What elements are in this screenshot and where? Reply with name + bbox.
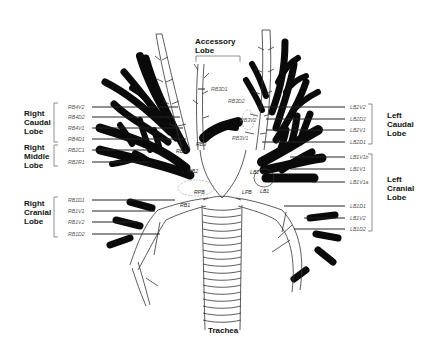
segment-label: RB2R1 <box>68 159 85 165</box>
trachea-ring <box>203 229 241 231</box>
trachea-ring <box>203 299 241 301</box>
label-lb2: LB2 <box>250 169 259 175</box>
lobe-title-line: Accessory <box>195 37 236 46</box>
segment-label: RB1D1 <box>68 197 85 203</box>
trachea-ring <box>203 215 241 217</box>
lobe-title-line: Lobe <box>387 129 407 138</box>
lobe-title-left-caudal: Left Caudal Lobe <box>387 111 414 138</box>
segment-label: LB2D2 <box>350 116 366 122</box>
segment-label: RB4V2 <box>68 104 85 110</box>
segment-label: RB3V2 <box>240 117 257 123</box>
label-lpb: LPB <box>242 189 252 195</box>
segment-label: LB2V2 <box>350 104 366 110</box>
segment-label: LB1V1a <box>350 179 369 185</box>
trachea-ring <box>203 243 241 245</box>
trachea-ring <box>203 320 241 322</box>
lobe-title-line: Cranial <box>24 208 51 217</box>
segment-label: RB1D2 <box>68 231 85 237</box>
lobe-title-right-middle: Right Middle Lobe <box>24 143 50 170</box>
label-rb1: RB1 <box>180 202 190 208</box>
lobe-title-line: Lobe <box>24 217 44 226</box>
lobe-title-accessory: Accessory Lobe <box>195 37 236 55</box>
segment-label: RB3D2 <box>228 98 245 104</box>
segment-label: LB1V1b <box>350 154 369 160</box>
lobe-title-line: Middle <box>24 152 50 161</box>
segment-label: RB1V1 <box>68 208 85 214</box>
lobe-title-line: Lobe <box>24 161 44 170</box>
trachea-ring <box>203 208 241 210</box>
segment-label: LB1D1 <box>350 203 366 209</box>
trachea-ring <box>203 250 241 252</box>
segment-labels-left-cranial: LB1V1b LB1V1 LB1V1a LB1D1 LB1V2 LB1D2 <box>350 154 369 232</box>
right-caudal-black-branches <box>100 56 190 175</box>
segment-labels-left-caudal: LB2V2 LB2D2 LB2V1 LB2D1 <box>350 104 366 145</box>
label-rb4: RB4 <box>176 148 186 154</box>
trachea-ring <box>203 278 241 280</box>
segment-label: RB4D1 <box>68 136 85 142</box>
trachea-label: Trachea <box>208 326 239 335</box>
trachea-ring <box>203 236 241 238</box>
segment-label: LB2D1 <box>350 139 366 145</box>
trachea-ring <box>203 285 241 287</box>
right-cranial-black-branches <box>110 202 152 245</box>
trachea-ring <box>203 222 241 224</box>
segment-label: LB1V1 <box>350 166 366 172</box>
segment-labels-right-middle: RB2C1 RB2R1 <box>68 147 85 165</box>
lobe-title-left-cranial: Left Cranial Lobe <box>387 175 414 202</box>
lobe-title-line: Left <box>387 175 402 184</box>
lobe-title-right-cranial: Right Cranial Lobe <box>24 199 51 226</box>
trachea-ring <box>203 313 241 315</box>
lobe-title-line: Caudal <box>387 120 414 129</box>
segment-label: RB3D1 <box>211 86 228 92</box>
trachea-ring <box>203 292 241 294</box>
segment-label: RB2C1 <box>68 147 85 153</box>
lobe-title-right-caudal: Right Caudal Lobe <box>24 109 51 136</box>
lobe-title-line: Caudal <box>24 118 51 127</box>
segment-label: RB4D2 <box>68 114 85 120</box>
label-rb3: RB3 <box>196 141 206 147</box>
segment-label: RB1V2 <box>68 219 85 225</box>
segment-label: LB1D2 <box>350 226 366 232</box>
lobe-title-line: Lobe <box>24 127 44 136</box>
lobe-title-line: Left <box>387 111 402 120</box>
trachea-ring <box>203 271 241 273</box>
label-rb2: RB2 <box>188 168 198 174</box>
lobe-title-line: Right <box>24 109 45 118</box>
segment-labels-right-caudal: RB4V2 RB4D2 RB4V1 RB4D1 <box>68 104 85 142</box>
trachea-ring <box>203 306 241 308</box>
segment-label: RB4V1 <box>68 125 85 131</box>
label-lb1: LB1 <box>260 188 269 194</box>
lobe-title-line: Right <box>24 143 45 152</box>
segment-label: RB3V1 <box>232 135 249 141</box>
trachea-ring <box>203 264 241 266</box>
segment-labels-right-cranial: RB1D1 RB1V1 RB1V2 RB1D2 <box>68 197 85 237</box>
airway-tree-diagram: Right Caudal Lobe Right Middle Lobe Righ… <box>0 0 427 349</box>
trachea-ring <box>203 257 241 259</box>
trachea <box>202 196 242 330</box>
lobe-title-line: Lobe <box>387 193 407 202</box>
lobe-title-line: Lobe <box>195 46 215 55</box>
label-rpb: RPB <box>194 189 205 195</box>
segment-label: LB2V1 <box>350 127 366 133</box>
lobe-title-line: Right <box>24 199 45 208</box>
lobe-title-line: Cranial <box>387 184 414 193</box>
segment-label: LB1V2 <box>350 215 366 221</box>
